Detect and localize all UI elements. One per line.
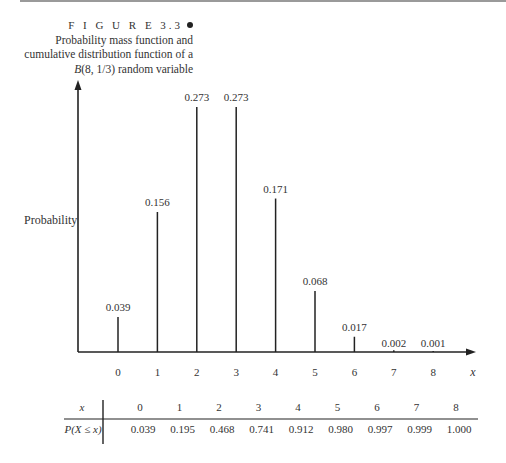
data-label: 0.273 xyxy=(184,91,209,103)
table-row-header-x: x xyxy=(79,401,85,413)
table-cell-x: 8 xyxy=(453,401,459,413)
x-tick-label: 1 xyxy=(155,366,161,378)
x-tick-label: 6 xyxy=(352,366,358,378)
data-label: 0.017 xyxy=(342,321,367,333)
table-cell-cdf: 0.039 xyxy=(131,423,156,435)
pmf-chart: x012345678 0.0390.1560.2730.2730.1710.06… xyxy=(0,0,506,463)
table-cell-cdf: 0.980 xyxy=(328,423,353,435)
table-cell-x: 1 xyxy=(177,401,183,413)
x-tick-label: 0 xyxy=(115,366,121,378)
x-tick-label: 7 xyxy=(391,366,397,378)
data-label: 0.273 xyxy=(224,91,249,103)
table-cell-cdf: 0.912 xyxy=(289,423,314,435)
data-label: 0.039 xyxy=(106,301,131,313)
table-cell-x: 4 xyxy=(295,401,301,413)
stems: 0.0390.1560.2730.2730.1710.0680.0170.002… xyxy=(106,91,446,352)
table-cell-x: 5 xyxy=(335,401,341,413)
table-cell-cdf: 1.000 xyxy=(447,423,472,435)
x-tick-label: 3 xyxy=(233,366,239,378)
table-cell-cdf: 0.997 xyxy=(368,423,393,435)
table-row-header-cdf: P(X ≤ x) xyxy=(63,423,102,436)
table-cell-x: 0 xyxy=(137,401,143,413)
table-cell-x: 2 xyxy=(216,401,222,413)
table-cell-cdf: 0.468 xyxy=(210,423,235,435)
table-cell-cdf: 0.741 xyxy=(249,423,274,435)
data-label: 0.171 xyxy=(263,183,288,195)
data-label: 0.001 xyxy=(421,337,446,349)
table-cell-x: 6 xyxy=(374,401,380,413)
x-tick-label: 4 xyxy=(273,366,279,378)
x-tick-label: 8 xyxy=(430,366,436,378)
table-cell-x: 3 xyxy=(256,401,262,413)
data-label: 0.156 xyxy=(145,196,170,208)
table-cell-x: 7 xyxy=(414,401,420,413)
cdf-table: xP(X ≤ x)00.03910.19520.46830.74140.9125… xyxy=(63,400,478,444)
x-axis-arrow-icon xyxy=(466,349,476,356)
x-tick-label: 2 xyxy=(194,366,200,378)
data-label: 0.002 xyxy=(381,337,406,349)
x-tick-label: 5 xyxy=(312,366,318,378)
table-cell-cdf: 0.195 xyxy=(170,423,195,435)
table-cell-cdf: 0.999 xyxy=(407,423,432,435)
x-axis-label: x xyxy=(469,365,476,379)
data-label: 0.068 xyxy=(303,275,328,287)
y-axis-arrow-icon xyxy=(75,80,82,90)
